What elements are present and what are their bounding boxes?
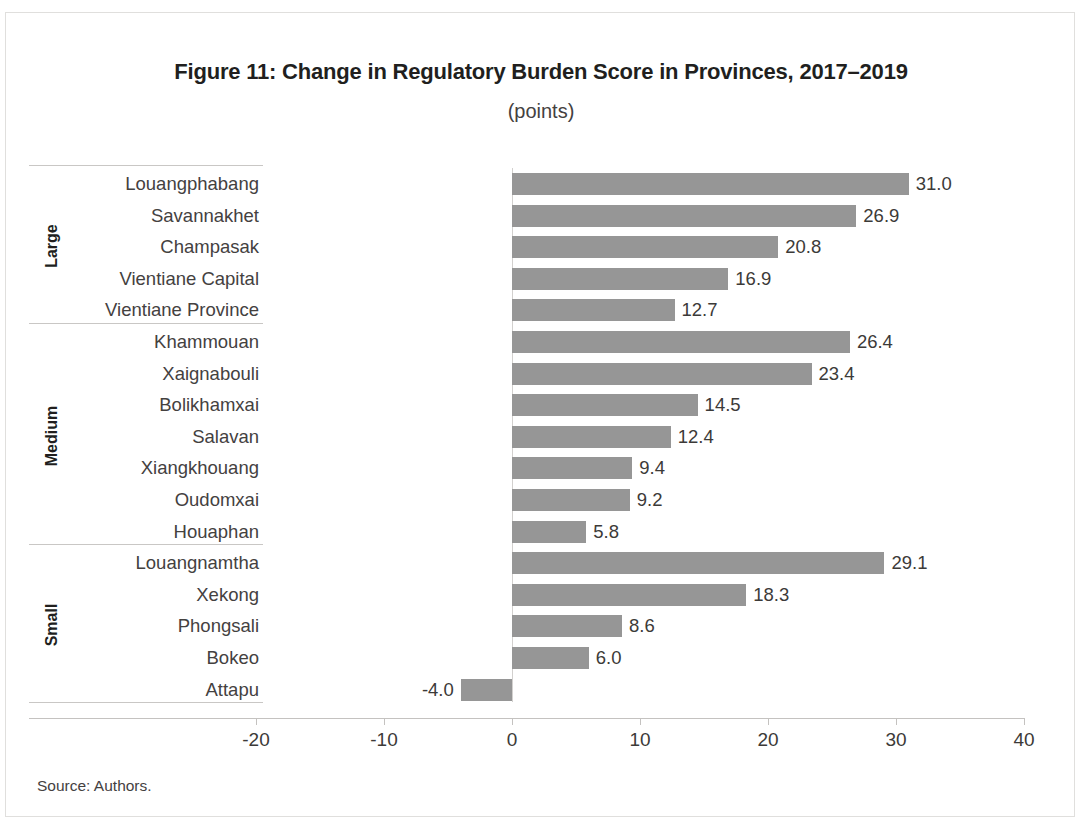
- group-separator: [29, 165, 263, 166]
- category-label: Champasak: [29, 234, 259, 260]
- x-axis-tick-label: 0: [472, 729, 552, 751]
- bar-value-label: 12.7: [682, 299, 718, 321]
- bar[interactable]: [512, 299, 675, 321]
- category-label: Attapu: [29, 677, 259, 703]
- category-label: Vientiane Province: [29, 297, 259, 323]
- bar-value-label: 6.0: [596, 647, 622, 669]
- bar[interactable]: [512, 647, 589, 669]
- x-axis-tick: [1024, 718, 1025, 725]
- bar-value-label: 16.9: [735, 268, 771, 290]
- bar[interactable]: [512, 205, 856, 227]
- x-axis-tick: [256, 718, 257, 725]
- bar[interactable]: [512, 615, 622, 637]
- x-axis-tick-label: 40: [984, 729, 1064, 751]
- x-axis-tick-label: 10: [600, 729, 680, 751]
- bar[interactable]: [512, 363, 812, 385]
- category-label: Khammouan: [29, 329, 259, 355]
- bar[interactable]: [512, 173, 909, 195]
- bar-value-label: 12.4: [678, 426, 714, 448]
- x-axis-tick: [768, 718, 769, 725]
- bar-value-label: 9.4: [639, 457, 665, 479]
- source-note: Source: Authors.: [37, 777, 152, 795]
- bar-value-label: 29.1: [891, 552, 927, 574]
- group-separator: [29, 323, 263, 324]
- bar-value-label: 18.3: [753, 584, 789, 606]
- bar-value-label: 5.8: [593, 521, 619, 543]
- bar-value-label: 8.6: [629, 615, 655, 637]
- chart-plot-area: Louangphabang31.0Savannakhet26.9Champasa…: [6, 13, 1076, 818]
- category-label: Xaignabouli: [29, 361, 259, 387]
- x-axis-tick: [896, 718, 897, 725]
- bar[interactable]: [461, 679, 512, 701]
- bar[interactable]: [512, 552, 884, 574]
- bar-value-label: 23.4: [819, 363, 855, 385]
- bar[interactable]: [512, 236, 778, 258]
- bar[interactable]: [512, 426, 671, 448]
- bar-value-label: -4.0: [404, 679, 454, 701]
- figure-frame: Figure 11: Change in Regulatory Burden S…: [5, 12, 1075, 817]
- group-label-large: Large: [43, 186, 61, 306]
- x-axis-tick-label: -10: [344, 729, 424, 751]
- category-label: Salavan: [29, 424, 259, 450]
- x-axis-tick: [512, 718, 513, 725]
- x-axis-tick-label: 20: [728, 729, 808, 751]
- category-label: Bokeo: [29, 645, 259, 671]
- bar-value-label: 31.0: [916, 173, 952, 195]
- category-label: Oudomxai: [29, 487, 259, 513]
- x-axis-tick-label: 30: [856, 729, 936, 751]
- category-label: Xiangkhouang: [29, 455, 259, 481]
- bar-value-label: 14.5: [705, 394, 741, 416]
- group-separator: [29, 702, 263, 703]
- category-label: Houaphan: [29, 519, 259, 545]
- bar-value-label: 26.4: [857, 331, 893, 353]
- category-label: Vientiane Capital: [29, 266, 259, 292]
- x-axis-tick: [640, 718, 641, 725]
- bar[interactable]: [512, 457, 632, 479]
- bar[interactable]: [512, 268, 728, 290]
- category-label: Xekong: [29, 582, 259, 608]
- bar-value-label: 20.8: [785, 236, 821, 258]
- group-label-medium: Medium: [43, 376, 61, 496]
- group-separator: [29, 544, 263, 545]
- bar[interactable]: [512, 394, 698, 416]
- bar[interactable]: [512, 521, 586, 543]
- bar[interactable]: [512, 489, 630, 511]
- category-label: Phongsali: [29, 613, 259, 639]
- category-label: Savannakhet: [29, 203, 259, 229]
- group-label-small: Small: [43, 565, 61, 685]
- bar-value-label: 9.2: [637, 489, 663, 511]
- x-axis-line: [29, 718, 1024, 719]
- category-label: Bolikhamxai: [29, 392, 259, 418]
- x-axis-tick-label: -20: [216, 729, 296, 751]
- category-label: Louangnamtha: [29, 550, 259, 576]
- category-label: Louangphabang: [29, 171, 259, 197]
- bar[interactable]: [512, 584, 746, 606]
- bar[interactable]: [512, 331, 850, 353]
- x-axis-tick: [384, 718, 385, 725]
- bar-value-label: 26.9: [863, 205, 899, 227]
